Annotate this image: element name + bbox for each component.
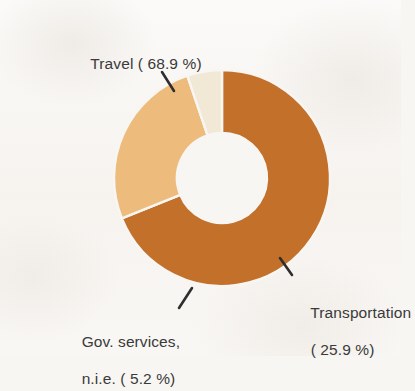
slice-label-transportation-line2: ( 25.9 %) xyxy=(311,341,375,358)
slice-label-travel: Travel ( 68.9 %) xyxy=(73,37,202,92)
slice-label-transportation-line1: Transportation xyxy=(310,304,411,321)
donut-hole xyxy=(178,134,266,222)
slice-label-transportation: Transportation ( 25.9 %) xyxy=(293,286,411,377)
slice-label-gov-services-line1: Gov. services, xyxy=(82,333,180,350)
slice-label-travel-text: Travel ( 68.9 %) xyxy=(90,55,201,72)
donut-chart: Travel ( 68.9 %) Transportation ( 25.9 %… xyxy=(40,16,361,340)
leader-line-gov-services xyxy=(179,288,192,308)
slice-group xyxy=(114,70,330,286)
slice-label-gov-services-line2: n.i.e. ( 5.2 %) xyxy=(82,370,176,387)
slice-label-gov-services: Gov. services, n.i.e. ( 5.2 %) xyxy=(64,315,180,391)
